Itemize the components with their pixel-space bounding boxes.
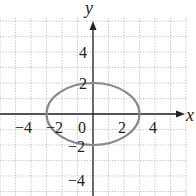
x-axis-label: x xyxy=(185,105,194,125)
x-tick-label: −2 xyxy=(46,119,63,136)
y-axis-arrow-icon xyxy=(90,21,97,30)
y-tick-label: 2 xyxy=(79,75,87,92)
chart-figure: y x −4 −2 0 2 4 4 2 −2 −4 xyxy=(0,0,196,196)
y-tick-label: 4 xyxy=(79,44,87,61)
x-axis-arrow-icon xyxy=(176,111,185,118)
y-tick-label: −2 xyxy=(68,138,85,155)
y-tick-label: −4 xyxy=(68,172,85,189)
y-axis-label: y xyxy=(83,0,93,18)
origin-label: 0 xyxy=(78,119,86,136)
chart-canvas: y x −4 −2 0 2 4 4 2 −2 −4 xyxy=(0,0,196,196)
x-tick-label: 4 xyxy=(149,119,157,136)
x-tick-label: −4 xyxy=(15,119,32,136)
x-tick-label: 2 xyxy=(118,119,126,136)
